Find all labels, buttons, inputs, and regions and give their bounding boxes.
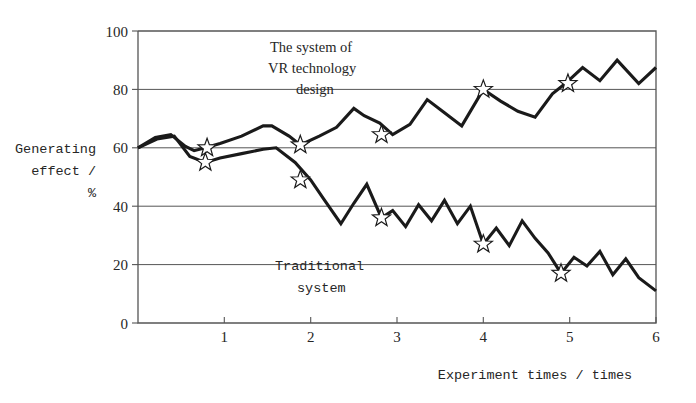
star-marker	[291, 170, 309, 187]
frame-border	[138, 31, 656, 323]
y-axis-title-line-1: Generating	[15, 142, 96, 157]
xtick-label-2: 2	[307, 329, 315, 345]
y-axis-ticks	[132, 31, 138, 323]
traditional-system-label-line-1: Traditional	[275, 259, 364, 274]
x-axis-title-text: Experiment times / times	[438, 368, 632, 383]
xtick-label-1: 1	[221, 329, 229, 345]
series-line-traditional-system	[138, 136, 656, 291]
series-line-vr-system	[138, 60, 656, 151]
xtick-label-4: 4	[480, 329, 488, 345]
vr-system-label-line-2: VR technology	[268, 60, 357, 76]
y-axis-title: Generating effect / %	[15, 142, 97, 201]
x-tick-labels: 1 2 3 4 5 6	[221, 329, 661, 345]
star-marker	[198, 138, 216, 155]
series-group	[138, 60, 656, 291]
xtick-label-6: 6	[652, 329, 660, 345]
gridlines	[138, 89, 656, 264]
ytick-label-60: 60	[113, 140, 128, 156]
star-marker	[372, 125, 390, 142]
ytick-label-40: 40	[113, 199, 128, 215]
star-marker	[291, 135, 309, 152]
x-axis-ticks	[224, 317, 656, 323]
traditional-system-label-line-2: system	[297, 281, 346, 296]
y-axis-title-line-3: %	[88, 186, 97, 201]
chart-container: 100 80 60 40 20 0 1 2 3 4 5 6 Generating…	[0, 0, 696, 403]
generating-effect-line-chart: 100 80 60 40 20 0 1 2 3 4 5 6 Generating…	[0, 0, 696, 403]
annotation-vr-system: The system of VR technology design	[268, 39, 357, 97]
y-axis-title-line-2: effect /	[31, 164, 96, 179]
vr-system-label-line-3: design	[296, 81, 335, 97]
annotation-traditional-system: Traditional system	[275, 259, 364, 296]
ytick-label-0: 0	[121, 316, 129, 332]
ytick-label-80: 80	[113, 82, 128, 98]
plot-frame	[138, 31, 656, 323]
xtick-label-5: 5	[566, 329, 574, 345]
series-markers	[196, 74, 577, 281]
ytick-label-20: 20	[113, 257, 128, 273]
y-tick-labels: 100 80 60 40 20 0	[106, 24, 129, 332]
xtick-label-3: 3	[393, 329, 401, 345]
x-axis-title: Experiment times / times	[438, 368, 632, 383]
ytick-label-100: 100	[106, 24, 129, 40]
vr-system-label-line-1: The system of	[270, 39, 352, 55]
star-marker	[372, 208, 390, 225]
